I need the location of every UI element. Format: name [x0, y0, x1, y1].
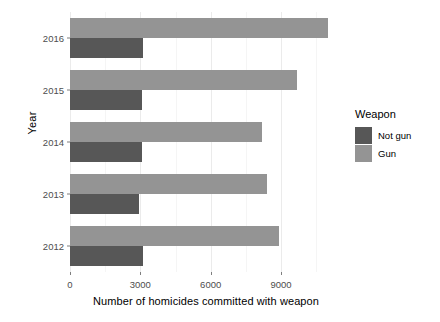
- bar-2016-not-gun: [70, 38, 143, 58]
- y-tick-label-2014: 2014: [22, 137, 64, 148]
- legend-swatch-gun: [355, 145, 372, 162]
- bar-chart-figure: Year 20162015201420132012 0300060009000 …: [0, 0, 440, 322]
- x-tick-label-9000: 9000: [270, 279, 291, 290]
- legend-row-not-gun: Not gun: [355, 126, 440, 144]
- bar-2015-not-gun: [70, 90, 142, 110]
- bar-2013-not-gun: [70, 194, 139, 214]
- bar-2013-gun: [70, 174, 267, 194]
- legend-title: Weapon: [355, 108, 440, 120]
- legend-row-gun: Gun: [355, 144, 440, 162]
- plot-panel: [70, 12, 342, 272]
- bar-2015-gun: [70, 70, 297, 90]
- y-tick-label-2016: 2016: [22, 33, 64, 44]
- legend: Weapon Not gunGun: [355, 108, 440, 162]
- x-axis-title: Number of homicides committed with weapo…: [70, 295, 342, 307]
- y-tick-label-2015: 2015: [22, 85, 64, 96]
- bar-2016-gun: [70, 18, 328, 38]
- bar-2014-gun: [70, 122, 262, 142]
- x-tick-label-0: 0: [67, 279, 72, 290]
- bar-2012-gun: [70, 226, 279, 246]
- x-tick-mark: [211, 272, 212, 275]
- y-tick-label-2012: 2012: [22, 241, 64, 252]
- x-tick-label-6000: 6000: [200, 279, 221, 290]
- x-tick-label-3000: 3000: [130, 279, 151, 290]
- gridline-major: [281, 12, 282, 272]
- legend-label-not-gun: Not gun: [378, 130, 411, 141]
- bar-2012-not-gun: [70, 246, 143, 266]
- legend-items: Not gunGun: [355, 126, 440, 162]
- x-tick-mark: [281, 272, 282, 275]
- y-tick-label-2013: 2013: [22, 189, 64, 200]
- bar-2014-not-gun: [70, 142, 142, 162]
- x-tick-mark: [70, 272, 71, 275]
- x-tick-mark: [140, 272, 141, 275]
- legend-label-gun: Gun: [378, 148, 396, 159]
- legend-swatch-not-gun: [355, 127, 372, 144]
- gridline-minor: [316, 12, 317, 272]
